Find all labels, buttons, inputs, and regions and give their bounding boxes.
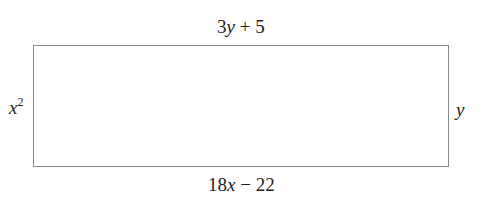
- right-side-label: y: [456, 100, 464, 119]
- top-const: 5: [255, 16, 265, 37]
- top-op: +: [235, 16, 255, 37]
- top-coef: 3: [217, 16, 227, 37]
- top-var: y: [227, 16, 235, 37]
- left-side-label: x2: [9, 98, 23, 117]
- bottom-const: 22: [256, 174, 275, 195]
- rectangle: [33, 45, 449, 167]
- bottom-coef: 18: [208, 174, 227, 195]
- right-var: y: [456, 99, 464, 120]
- bottom-op: −: [235, 174, 255, 195]
- bottom-side-label: 18x − 22: [208, 175, 275, 194]
- top-side-label: 3y + 5: [217, 17, 265, 36]
- left-exponent: 2: [17, 95, 23, 109]
